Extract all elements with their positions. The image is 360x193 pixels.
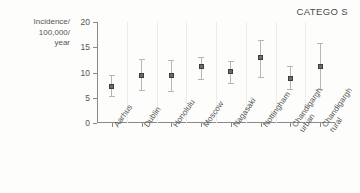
y-axis-label-line-1: Incidence/ bbox=[8, 17, 70, 28]
error-bar-cap-lower bbox=[198, 79, 204, 80]
point-marker bbox=[199, 64, 204, 69]
error-bar-cap-upper bbox=[258, 40, 264, 41]
error-bar-cap-lower bbox=[228, 83, 234, 84]
point-marker bbox=[228, 69, 233, 74]
error-bar-cap-upper bbox=[109, 75, 115, 76]
error-bar-cap-upper bbox=[287, 66, 293, 67]
error-bar-cap-lower bbox=[168, 91, 174, 92]
y-tick-label: 15 bbox=[81, 42, 90, 52]
y-tick-mark bbox=[93, 73, 97, 74]
point-marker bbox=[288, 76, 293, 81]
y-axis-label-line-2: 100,000/ bbox=[8, 28, 70, 39]
point-marker bbox=[258, 55, 263, 60]
chart-figure: CATEGO S Incidence/ 100,000/ year 051015… bbox=[0, 0, 360, 193]
error-bar-cap-upper bbox=[139, 59, 145, 60]
x-axis-labels: AarhusDublinHonoluluMoscowNagasakiNottin… bbox=[97, 128, 335, 190]
error-bar-cap-lower bbox=[258, 77, 264, 78]
y-tick-label: 5 bbox=[85, 93, 90, 103]
error-bar-cap-upper bbox=[198, 57, 204, 58]
error-bar-cap-lower bbox=[287, 89, 293, 90]
y-tick-mark bbox=[93, 47, 97, 48]
y-tick-label: 10 bbox=[81, 68, 90, 78]
error-bar-cap-upper bbox=[317, 43, 323, 44]
point-marker bbox=[109, 84, 114, 89]
y-tick-label: 0 bbox=[85, 118, 90, 128]
error-bar-cap-upper bbox=[228, 61, 234, 62]
error-bar-cap-lower bbox=[139, 90, 145, 91]
point-marker bbox=[318, 64, 323, 69]
y-tick-mark bbox=[93, 98, 97, 99]
y-tick-label: 20 bbox=[81, 17, 90, 27]
point-marker bbox=[169, 73, 174, 78]
y-tick-mark bbox=[93, 22, 97, 23]
error-bar-cap-upper bbox=[168, 60, 174, 61]
y-tick-mark bbox=[93, 123, 97, 124]
y-axis-label: Incidence/ 100,000/ year bbox=[8, 17, 70, 49]
chart-title: CATEGO S bbox=[296, 6, 348, 17]
y-axis-label-line-3: year bbox=[8, 38, 70, 49]
point-marker bbox=[139, 73, 144, 78]
error-bar-cap-lower bbox=[109, 96, 115, 97]
